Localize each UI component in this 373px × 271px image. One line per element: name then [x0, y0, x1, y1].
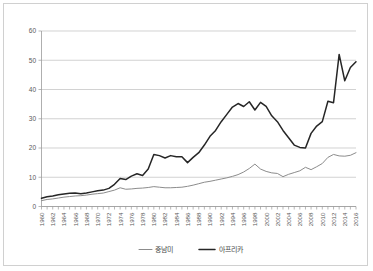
y-tick-label: 10	[29, 174, 37, 181]
y-tick-label: 60	[29, 27, 37, 34]
y-axis-tick-marks	[39, 31, 42, 207]
x-tick-label: 1974	[117, 212, 124, 226]
x-tick-label: 1970	[94, 212, 101, 226]
x-tick-label: 2006	[296, 212, 303, 226]
gridlines	[42, 31, 357, 207]
x-tick-label: 1964	[60, 212, 67, 226]
y-tick-label: 0	[32, 203, 36, 210]
x-axis-tick-labels: 1960196219641966196819701972197419761978…	[38, 212, 360, 226]
y-tick-label: 40	[29, 86, 37, 93]
x-tick-label: 1986	[184, 212, 191, 226]
x-tick-label: 1996	[240, 212, 247, 226]
x-tick-label: 2002	[274, 212, 281, 226]
x-tick-label: 2004	[285, 212, 292, 226]
x-tick-label: 2000	[263, 212, 270, 226]
x-tick-label: 1960	[38, 212, 45, 226]
x-tick-label: 1992	[218, 212, 225, 226]
x-tick-label: 1966	[72, 212, 79, 226]
x-tick-label: 2014	[341, 212, 348, 226]
x-tick-label: 1984	[173, 212, 180, 226]
x-tick-label: 1980	[150, 212, 157, 226]
y-tick-label: 20	[29, 144, 37, 151]
x-tick-label: 1976	[128, 212, 135, 226]
x-tick-label: 1998	[251, 212, 258, 226]
series-line-latin-america	[42, 153, 357, 201]
legend: 중남미 아프리카	[139, 245, 244, 254]
y-tick-label: 30	[29, 115, 37, 122]
x-tick-label: 2016	[352, 212, 359, 226]
x-axis-tick-marks	[42, 207, 357, 210]
x-tick-label: 1990	[206, 212, 213, 226]
series-line-africa	[42, 54, 357, 198]
x-tick-label: 1994	[229, 212, 236, 226]
x-tick-label: 1972	[105, 212, 112, 226]
x-tick-label: 2012	[330, 212, 337, 226]
x-tick-label: 1962	[49, 212, 56, 226]
x-tick-label: 1988	[195, 212, 202, 226]
y-tick-label: 50	[29, 57, 37, 64]
legend-label-africa: 아프리카	[219, 245, 244, 254]
x-tick-label: 1982	[161, 212, 168, 226]
x-tick-label: 1968	[83, 212, 90, 226]
x-tick-label: 2008	[307, 212, 314, 226]
line-chart: 0102030405060 19601962196419661968197019…	[0, 0, 373, 271]
x-tick-label: 1978	[139, 212, 146, 226]
legend-label-latin-america: 중남미	[155, 245, 173, 254]
y-axis-tick-labels: 0102030405060	[29, 27, 37, 210]
x-tick-label: 2010	[319, 212, 326, 226]
